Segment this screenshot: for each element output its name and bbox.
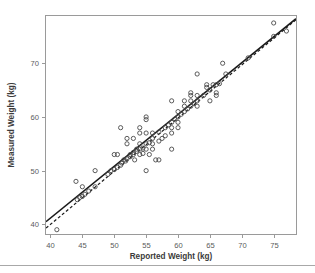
- y-tick-label: 50: [31, 167, 39, 176]
- x-tick-label: 50: [110, 241, 118, 250]
- x-tick-label: 75: [270, 241, 278, 250]
- x-tick-label: 65: [206, 241, 214, 250]
- x-tick-label: 45: [78, 241, 86, 250]
- x-tick-label: 40: [46, 241, 54, 250]
- y-tick-label: 40: [31, 220, 39, 229]
- x-axis-label: Reported Weight (kg): [130, 252, 213, 261]
- y-tick-label: 60: [31, 113, 39, 122]
- x-tick-label: 70: [238, 241, 246, 250]
- x-tick-label: 60: [174, 241, 182, 250]
- y-axis-label: Measured Weight (kg): [7, 82, 16, 167]
- chart-figure: 4045505560657075 40506070 Reported Weigh…: [0, 0, 315, 273]
- scatter-plot: 4045505560657075 40506070 Reported Weigh…: [0, 0, 315, 273]
- y-tick-label: 70: [31, 59, 39, 68]
- x-tick-label: 55: [142, 241, 150, 250]
